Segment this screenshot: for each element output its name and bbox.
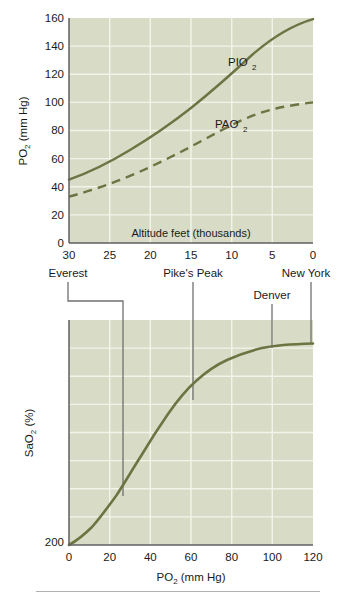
top-ylabel-unit: (mm Hg)	[17, 96, 29, 144]
svg-text:20: 20	[144, 249, 157, 261]
pio2-label-base: PIO	[228, 56, 248, 68]
svg-text:25: 25	[103, 249, 116, 261]
bottom-ylabel-unit: (%)	[23, 409, 35, 430]
svg-text:80: 80	[51, 124, 64, 136]
pio2-label-sub: 2	[252, 63, 257, 72]
svg-text:100: 100	[263, 551, 282, 563]
svg-text:60: 60	[185, 551, 198, 563]
place-label-denver: Denver	[253, 289, 290, 301]
svg-text:0: 0	[310, 249, 316, 261]
svg-text:20: 20	[51, 209, 64, 221]
top-chart-xlabel: Altitude feet (thousands)	[131, 227, 250, 239]
top-chart-panel: PIO 2 PAO 2 Altitude feet (thousands) 0 …	[17, 12, 316, 261]
bottom-chart-x-tick-labels: 0 20 40 60 80 100 120	[66, 551, 323, 563]
top-chart-x-tick-labels: 30 25 20 15 10 5 0	[63, 249, 317, 261]
bottom-chart-panel: 200 SaO2 (%) 0 20 40 60 80 100 120 PO2 (…	[23, 320, 323, 586]
svg-text:120: 120	[45, 68, 64, 80]
connector-lines	[68, 282, 311, 320]
svg-text:100: 100	[45, 96, 64, 108]
svg-text:SaO2 (%): SaO2 (%)	[23, 409, 38, 458]
place-label-everest: Everest	[49, 267, 89, 279]
svg-text:60: 60	[51, 153, 64, 165]
svg-text:120: 120	[303, 551, 322, 563]
bottom-chart-xlabel: PO2 (mm Hg)	[157, 571, 226, 586]
svg-text:140: 140	[45, 40, 64, 52]
svg-text:80: 80	[225, 551, 238, 563]
svg-text:30: 30	[63, 249, 76, 261]
svg-text:20: 20	[103, 551, 116, 563]
svg-text:10: 10	[225, 249, 238, 261]
svg-text:5: 5	[269, 249, 275, 261]
connector-everest	[68, 282, 123, 320]
bottom-ylabel-base: SaO	[23, 434, 35, 457]
svg-text:160: 160	[45, 12, 64, 24]
svg-text:40: 40	[144, 551, 157, 563]
bottom-xlabel-base: PO	[157, 571, 174, 583]
top-ylabel-base: PO	[17, 149, 29, 166]
svg-text:0: 0	[58, 237, 64, 249]
figure-container: PIO 2 PAO 2 Altitude feet (thousands) 0 …	[0, 0, 340, 603]
svg-text:0: 0	[66, 551, 72, 563]
pao2-label-base: PAO	[215, 118, 238, 130]
svg-text:PO2 (mm Hg): PO2 (mm Hg)	[17, 96, 32, 165]
top-chart-y-tick-labels: 0 20 40 60 80 100 120 140 160	[45, 12, 64, 249]
place-label-new-york: New York	[282, 267, 331, 279]
top-chart-ylabel: PO2 (mm Hg)	[17, 96, 32, 165]
svg-text:40: 40	[51, 181, 64, 193]
two-panel-oxygen-figure: PIO 2 PAO 2 Altitude feet (thousands) 0 …	[0, 0, 340, 603]
place-label-pikes-peak: Pike's Peak	[163, 267, 223, 279]
bottom-xlabel-unit: (mm Hg)	[178, 571, 226, 583]
bottom-chart-ylabel: SaO2 (%)	[23, 409, 38, 458]
svg-text:15: 15	[185, 249, 198, 261]
bottom-chart-y-tick-label: 200	[45, 536, 64, 548]
pao2-label-sub: 2	[243, 125, 248, 134]
place-annotations: Everest Pike's Peak New York Denver	[49, 267, 331, 301]
